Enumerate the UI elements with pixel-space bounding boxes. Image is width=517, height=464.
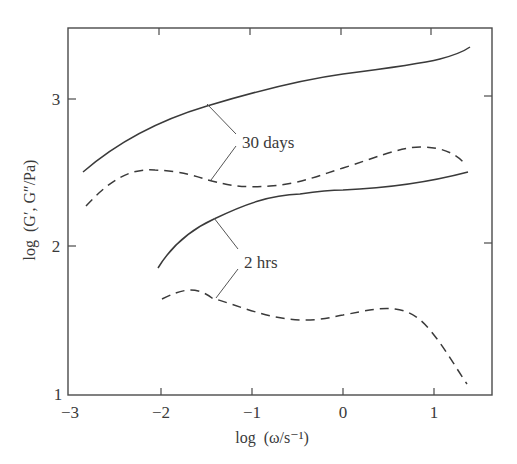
rheology-chart: −3 −2 −1 0 1 1 2 3 log (ω/s⁻¹) log (G′, … (0, 0, 517, 464)
y-ticks-left (68, 99, 76, 246)
leader-line-30-days-lower (211, 146, 236, 180)
curve-g-double-prime-2-hrs (162, 290, 467, 384)
y-ticks-right (484, 96, 492, 243)
y-tick-label: 1 (54, 385, 63, 404)
y-tick-label: 2 (52, 237, 61, 256)
plot-frame (68, 28, 492, 395)
annotation-2-hrs: 2 hrs (244, 253, 278, 272)
annotation-30-days: 30 days (242, 133, 294, 152)
x-tick-label: −3 (61, 403, 79, 422)
x-ticks-bottom (161, 388, 434, 395)
leader-line-2-hrs-upper (214, 218, 238, 249)
x-tick-label: −2 (152, 403, 170, 422)
x-tick-label: −1 (243, 403, 261, 422)
y-tick-label: 3 (52, 90, 61, 109)
x-tick-label: 1 (430, 403, 439, 422)
curve-g-prime-30-days (83, 47, 470, 172)
x-tick-label: 0 (339, 403, 348, 422)
x-axis-label: log (ω/s⁻¹) (235, 429, 309, 447)
curve-g-prime-2-hrs (158, 172, 468, 268)
y-axis-label: log (G′, G″/Pa) (21, 160, 39, 261)
leader-line-30-days-upper (207, 104, 236, 134)
x-ticks-top (159, 28, 431, 35)
leader-line-2-hrs-lower (216, 269, 238, 298)
